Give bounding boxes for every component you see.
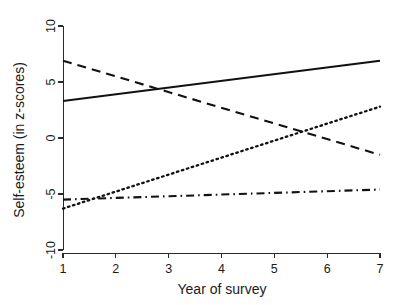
- x-tick-label-6: 6: [324, 262, 331, 276]
- x-tick-label-4: 4: [218, 262, 225, 276]
- y-tick-label-5: 5: [44, 78, 58, 85]
- line-series-dashed: [63, 61, 380, 155]
- line-series-dotted: [63, 107, 380, 209]
- series-group: [63, 61, 380, 209]
- x-axis-title: Year of survey: [178, 281, 267, 297]
- x-tick-label-1: 1: [60, 262, 67, 276]
- y-tick-labels: 10 5 0 -5 -10: [44, 19, 58, 259]
- y-tick-label-10: 10: [44, 19, 58, 33]
- y-tick-label--5: -5: [44, 188, 58, 199]
- line-series-dashdot: [63, 190, 380, 200]
- x-tick-label-7: 7: [377, 262, 384, 276]
- x-tick-label-2: 2: [112, 262, 119, 276]
- chart-canvas: 10 5 0 -5 -10 1 2 3 4 5 6 7 Year of su: [0, 0, 406, 305]
- y-tick-group: [58, 26, 63, 250]
- line-series-solid: [63, 61, 380, 101]
- x-tick-label-3: 3: [165, 262, 172, 276]
- chart-figure: 10 5 0 -5 -10 1 2 3 4 5 6 7 Year of su: [0, 0, 406, 305]
- x-tick-labels: 1 2 3 4 5 6 7: [60, 262, 384, 276]
- y-tick-label-0: 0: [44, 134, 58, 141]
- y-axis-title: Self-esteem (in z-scores): [11, 62, 27, 218]
- x-tick-label-5: 5: [271, 262, 278, 276]
- y-tick-label--10: -10: [44, 241, 58, 259]
